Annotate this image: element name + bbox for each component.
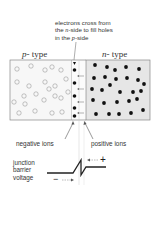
free-electron xyxy=(124,65,128,69)
free-electron xyxy=(100,88,104,92)
negative-ion xyxy=(73,68,77,72)
barrier-voltage-curve xyxy=(47,160,106,175)
negative-ions-label: negative ions xyxy=(16,140,54,147)
barrier-label-line-1: junction xyxy=(13,159,35,166)
barrier-label-line-2: barrier xyxy=(13,166,35,173)
negative-ion xyxy=(73,81,77,85)
free-electron xyxy=(135,97,139,101)
free-electron xyxy=(108,83,112,87)
free-electron xyxy=(93,63,97,67)
positive-ions-pointer xyxy=(85,123,93,139)
free-electron xyxy=(141,108,145,112)
free-electron xyxy=(136,78,140,82)
free-electron xyxy=(131,90,135,94)
free-electron xyxy=(142,82,146,86)
minus-sign: − xyxy=(53,174,58,184)
free-electron xyxy=(129,111,133,115)
free-electron xyxy=(139,89,143,93)
positive-ions-label: positive ions xyxy=(91,140,126,147)
negative-ion xyxy=(73,114,77,118)
free-electron xyxy=(105,65,109,69)
free-electron xyxy=(113,68,117,72)
free-electron xyxy=(127,99,131,103)
free-electron xyxy=(102,101,106,105)
negative-ion xyxy=(73,94,77,98)
free-electron xyxy=(115,100,119,104)
free-electron xyxy=(92,76,96,80)
free-electron xyxy=(103,75,107,79)
free-electron xyxy=(114,77,118,81)
negative-ions-pointer xyxy=(65,123,73,139)
plus-sign: + xyxy=(100,154,106,165)
free-electron xyxy=(94,112,98,116)
free-electron xyxy=(117,112,121,116)
free-electron xyxy=(90,87,94,91)
negative-ion xyxy=(73,106,77,110)
free-electron xyxy=(137,67,141,71)
free-electron xyxy=(107,112,111,116)
negative-ions-arrowhead xyxy=(72,121,75,125)
junction-barrier-voltage-label: junction barrier voltage xyxy=(13,159,35,181)
minus-arrowhead xyxy=(71,179,74,182)
barrier-label-line-3: voltage xyxy=(13,174,35,181)
plus-arrowhead xyxy=(87,159,90,162)
free-electron xyxy=(125,76,129,80)
free-electron xyxy=(118,90,122,94)
caption-pointer xyxy=(74,42,76,60)
free-electron xyxy=(91,98,95,102)
